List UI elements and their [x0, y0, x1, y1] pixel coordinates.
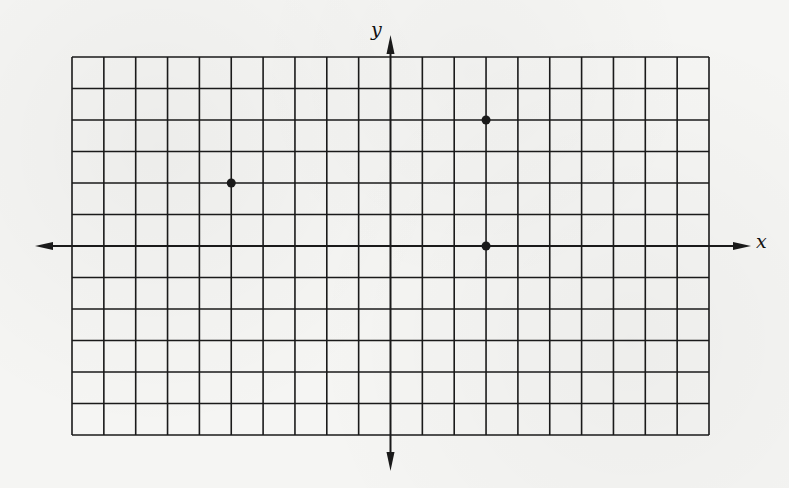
y-axis-label: y: [371, 20, 382, 39]
coordinate-grid: [0, 0, 789, 488]
x-axis-left-arrow-icon: [35, 242, 53, 250]
x-axis-label: x: [756, 232, 767, 251]
axes: [35, 35, 751, 471]
plotted-point: [227, 179, 236, 188]
y-axis-up-arrow-icon: [387, 35, 395, 54]
plotted-point: [482, 242, 491, 251]
plotted-point: [482, 116, 491, 125]
x-axis-right-arrow-icon: [733, 242, 751, 250]
y-axis-down-arrow-icon: [387, 452, 395, 471]
